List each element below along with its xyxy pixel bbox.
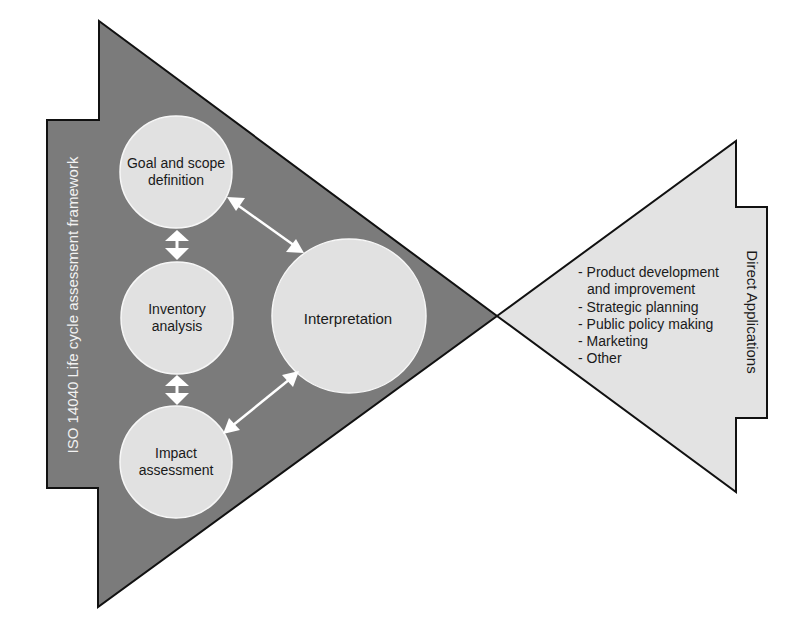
applications-list: - Product development and improvement - … (578, 264, 719, 368)
impact-line-1: Impact (139, 445, 214, 462)
application-item: - Marketing (578, 333, 719, 350)
impact-line-2: assessment (139, 462, 214, 479)
inventory-label: Inventory analysis (148, 301, 206, 335)
impact-label: Impact assessment (139, 445, 214, 479)
goal-scope-line-1: Goal and scope (127, 155, 225, 172)
application-item-continuation: and improvement (578, 281, 719, 298)
goal-scope-label: Goal and scope definition (127, 155, 225, 189)
application-item: - Product development (578, 264, 719, 281)
interpretation-label: Interpretation (304, 310, 392, 327)
inventory-line-1: Inventory (148, 301, 206, 318)
framework-title: ISO 14040 Life cycle assessment framewor… (64, 157, 81, 454)
interpretation-line-1: Interpretation (304, 310, 392, 327)
application-item: - Public policy making (578, 316, 719, 333)
inventory-line-2: analysis (148, 318, 206, 335)
application-item: - Other (578, 350, 719, 367)
applications-title: Direct Applications (744, 250, 761, 373)
application-item: - Strategic planning (578, 299, 719, 316)
goal-scope-line-2: definition (127, 172, 225, 189)
